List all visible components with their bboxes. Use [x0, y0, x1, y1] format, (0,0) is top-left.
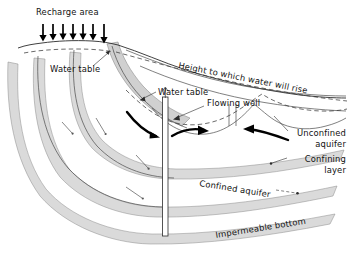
flowing-well[interactable] [162, 87, 168, 236]
leader-dot-confined-aquifer [296, 192, 299, 195]
label-unconfined-aquifer-line2: aquifer [315, 139, 346, 149]
recharge-arrow [100, 24, 107, 44]
leader-dot-confining-layer [270, 162, 272, 164]
flow-arrow-thin [126, 187, 144, 200]
leader-confined-aquifer [276, 190, 296, 193]
label-confining-layer-line2: layer [324, 165, 346, 175]
label-confining-layer-line1: Confining [305, 154, 346, 164]
label-recharge-area: Recharge area [36, 7, 99, 17]
label-water-table-right: Water table [158, 87, 208, 97]
recharge-arrow [89, 24, 96, 41]
flow-arrow-thin [62, 122, 74, 135]
flow-arrow-thin [96, 118, 107, 135]
leader-flowing-well [176, 106, 204, 118]
recharge-arrow [59, 24, 66, 40]
groundwater-flow-arrow-left [127, 112, 160, 139]
recharge-arrow [69, 24, 76, 40]
aquifer-diagram: Recharge area Water table Water table He… [0, 0, 349, 262]
hillside-mantle-band [107, 42, 190, 126]
groundwater-flow-arrow-right [243, 125, 288, 141]
recharge-arrow [39, 24, 46, 42]
label-confined-aquifer: Confined aquifer [199, 178, 272, 199]
diagram-canvas: Recharge area Water table Water table He… [0, 0, 349, 262]
recharge-arrow [49, 24, 56, 41]
water-table-line-left [24, 49, 114, 53]
label-unconfined-aquifer-line1: Unconfined [297, 128, 346, 138]
rock-contact-line-a [38, 56, 162, 207]
well-casing [163, 97, 169, 236]
leader-unconfined-aquifer [274, 116, 288, 131]
label-water-table-left: Water table [50, 64, 100, 74]
label-flowing-well: Flowing well [207, 98, 260, 108]
recharge-arrow [79, 24, 86, 40]
